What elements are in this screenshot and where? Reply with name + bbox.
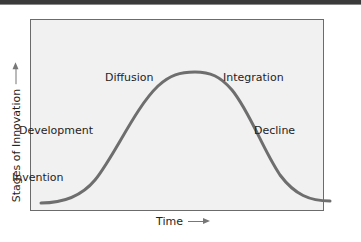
x-axis-label-text: Time (156, 215, 183, 228)
x-axis-arrow-icon (188, 221, 204, 222)
x-axis-label: Time (156, 215, 204, 228)
stage-label-integration: Integration (223, 71, 284, 84)
stage-label-diffusion: Diffusion (105, 71, 154, 84)
stage-label-development: Development (19, 124, 93, 137)
y-axis-label-text: Stages of Innovation (10, 89, 23, 202)
innovation-curve (0, 0, 361, 242)
y-axis-arrow-icon (16, 68, 17, 84)
stage-label-decline: Decline (254, 124, 295, 137)
y-axis-label: Stages of Innovation (6, 60, 26, 210)
